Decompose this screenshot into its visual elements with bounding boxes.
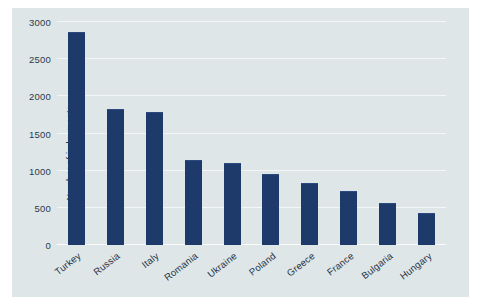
x-tick-label-russia: Russia	[92, 250, 123, 277]
bar-group: Greece	[290, 22, 329, 245]
x-tick-label-ukraine: Ukraine	[205, 250, 239, 280]
y-tick-label: 3000	[29, 17, 51, 28]
x-tick-label-france: France	[325, 250, 356, 278]
x-tick-label-greece: Greece	[284, 250, 316, 279]
bar-turkey[interactable]	[68, 32, 85, 245]
bar-greece[interactable]	[301, 183, 318, 245]
bar-bulgaria[interactable]	[379, 203, 396, 245]
bar-romania[interactable]	[185, 160, 202, 245]
x-tick-label-hungary: Hungary	[397, 250, 433, 282]
bar-group: Poland	[252, 22, 291, 245]
bar-series: TurkeyRussiaItalyRomaniaUkrainePolandGre…	[57, 22, 446, 245]
y-tick-label: 500	[35, 202, 51, 213]
x-tick-label-turkey: Turkey	[53, 250, 83, 277]
bar-italy[interactable]	[146, 112, 163, 245]
x-tick-label-romania: Romania	[162, 250, 200, 283]
bar-ukraine[interactable]	[224, 163, 241, 246]
y-tick-label: 2000	[29, 91, 51, 102]
bar-group: Romania	[174, 22, 213, 245]
bar-poland[interactable]	[262, 174, 279, 245]
plot-area: 050010001500200025003000 TurkeyRussiaIta…	[57, 22, 446, 245]
bar-group: France	[329, 22, 368, 245]
bar-group: Bulgaria	[368, 22, 407, 245]
y-tick-label: 1000	[29, 165, 51, 176]
bar-russia[interactable]	[107, 109, 124, 245]
bar-france[interactable]	[340, 191, 357, 245]
bar-group: Italy	[135, 22, 174, 245]
bar-group: Russia	[96, 22, 135, 245]
bar-group: Turkey	[57, 22, 96, 245]
chart-figure: Number of judgements 0500100015002000250…	[12, 8, 469, 297]
x-tick-label-poland: Poland	[247, 250, 278, 278]
x-tick-label-bulgaria: Bulgaria	[359, 250, 395, 281]
bar-hungary[interactable]	[418, 213, 435, 245]
x-tick-label-italy: Italy	[140, 250, 161, 270]
bar-group: Hungary	[407, 22, 446, 245]
bar-group: Ukraine	[213, 22, 252, 245]
y-tick-label: 1500	[29, 128, 51, 139]
y-tick-label: 2500	[29, 54, 51, 65]
y-tick-label: 0	[46, 240, 51, 251]
